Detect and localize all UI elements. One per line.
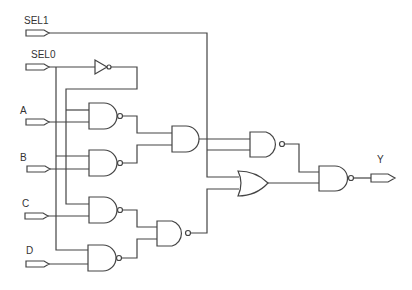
- nand-gate-top: [250, 132, 285, 157]
- input-port-c: [25, 213, 48, 219]
- nand-gate-a: [89, 103, 123, 129]
- wire-nand-a-out: [123, 116, 172, 133]
- not-gate-sel0: [95, 60, 111, 74]
- nand-gate-c: [89, 197, 123, 223]
- input-port-b: [27, 166, 50, 172]
- circuit-svg: [0, 0, 412, 290]
- input-port-a: [26, 119, 49, 125]
- input-port-d: [26, 261, 49, 267]
- wire-sel0-vertical: [56, 67, 89, 250]
- nand-gate-b: [89, 150, 123, 176]
- wire-nand-cd-out: [191, 189, 239, 233]
- wire-nand-c-out: [123, 210, 157, 227]
- wire-nand-d-out: [122, 239, 157, 258]
- and-gate-ab: [172, 126, 199, 152]
- output-port-y: [371, 174, 395, 182]
- input-port-sel1: [26, 30, 49, 36]
- wire-nand-top-out: [285, 144, 319, 172]
- wire-nand-b-out: [123, 145, 172, 163]
- logic-circuit-diagram: SEL1 SEL0 A B C D Y: [0, 0, 412, 290]
- input-port-sel0: [26, 64, 49, 70]
- or-gate-bottom: [238, 171, 268, 196]
- nand-gate-output: [319, 166, 354, 191]
- wire-not-sel0: [66, 67, 137, 204]
- nand-gate-d: [88, 245, 122, 271]
- nand-gate-cd: [157, 221, 191, 246]
